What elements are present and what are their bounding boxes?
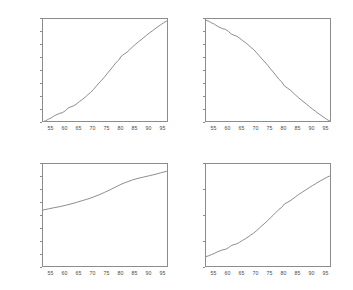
figure-container: 4.44.85.25.66.06.46.87.27.65560657075808…: [0, 0, 353, 290]
plot-area-top-left: [42, 18, 168, 122]
x-axis-label: 65: [76, 126, 82, 131]
y-tick-mark: [40, 96, 42, 97]
y-tick-mark: [203, 163, 205, 164]
y-tick-mark: [40, 18, 42, 19]
series-plot-bottom-left: [43, 164, 167, 266]
x-axis-label: 90: [146, 126, 152, 131]
x-axis-label: 90: [146, 271, 152, 276]
y-tick-mark: [40, 31, 42, 32]
line-series: [43, 171, 167, 210]
y-tick-mark: [203, 57, 205, 58]
x-axis-label: 60: [62, 271, 68, 276]
line-series: [43, 20, 167, 121]
x-axis-label: 75: [267, 126, 273, 131]
y-tick-mark: [203, 267, 205, 268]
chart-panel-bottom-right: 45678556065707580859095: [0, 0, 1, 74]
x-axis-label: 60: [225, 271, 231, 276]
y-tick-mark: [40, 189, 42, 190]
line-series: [206, 20, 330, 121]
x-axis-label: 55: [48, 126, 54, 131]
plot-area-bottom-right: [205, 163, 331, 267]
series-plot-bottom-right: [206, 164, 330, 266]
y-tick-mark: [203, 122, 205, 123]
x-axis-label: 85: [295, 126, 301, 131]
x-axis-label: 85: [295, 271, 301, 276]
x-axis-label: 70: [253, 126, 259, 131]
x-axis-label: 55: [48, 271, 54, 276]
x-axis-label: 55: [211, 271, 217, 276]
x-axis-label: 95: [160, 271, 166, 276]
y-tick-mark: [40, 176, 42, 177]
x-axis-label: 85: [132, 271, 138, 276]
x-axis-label: 65: [76, 271, 82, 276]
y-tick-mark: [203, 189, 205, 190]
y-tick-mark: [40, 44, 42, 45]
x-axis-label: 80: [281, 271, 287, 276]
x-axis-label: 75: [104, 271, 110, 276]
x-axis-label: 60: [225, 126, 231, 131]
y-tick-mark: [40, 70, 42, 71]
y-tick-mark: [203, 83, 205, 84]
x-axis-label: 65: [239, 271, 245, 276]
series-plot-top-right: [206, 19, 330, 121]
plot-area-bottom-left: [42, 163, 168, 267]
y-tick-mark: [203, 31, 205, 32]
y-tick-mark: [40, 109, 42, 110]
x-minor-tick-mark: [0, 72, 1, 74]
y-tick-mark: [40, 202, 42, 203]
x-axis-label: 95: [323, 271, 329, 276]
x-axis-label: 70: [90, 271, 96, 276]
y-tick-mark: [203, 109, 205, 110]
y-tick-mark: [40, 163, 42, 164]
y-tick-mark: [40, 83, 42, 84]
x-axis-label: 75: [104, 126, 110, 131]
y-tick-mark: [40, 122, 42, 123]
y-tick-mark: [40, 57, 42, 58]
x-axis-label: 90: [309, 126, 315, 131]
x-axis-label: 95: [160, 126, 166, 131]
y-tick-mark: [203, 18, 205, 19]
x-axis-label: 80: [118, 126, 124, 131]
y-tick-mark: [40, 254, 42, 255]
x-axis-label: 80: [118, 271, 124, 276]
y-tick-mark: [40, 215, 42, 216]
x-axis-label: 90: [309, 271, 315, 276]
x-axis-label: 55: [211, 126, 217, 131]
x-axis-label: 85: [132, 126, 138, 131]
x-axis-label: 95: [323, 126, 329, 131]
x-axis-label: 70: [90, 126, 96, 131]
y-tick-mark: [203, 241, 205, 242]
y-tick-mark: [40, 241, 42, 242]
y-tick-mark: [203, 96, 205, 97]
y-tick-mark: [203, 70, 205, 71]
y-tick-mark: [203, 44, 205, 45]
y-tick-mark: [203, 215, 205, 216]
line-series: [206, 175, 330, 256]
plot-area-top-right: [205, 18, 331, 122]
x-axis-label: 70: [253, 271, 259, 276]
y-tick-mark: [40, 228, 42, 229]
series-plot-top-left: [43, 19, 167, 121]
x-axis-label: 75: [267, 271, 273, 276]
x-axis-label: 80: [281, 126, 287, 131]
x-axis-label: 65: [239, 126, 245, 131]
y-tick-mark: [40, 267, 42, 268]
x-axis-label: 60: [62, 126, 68, 131]
